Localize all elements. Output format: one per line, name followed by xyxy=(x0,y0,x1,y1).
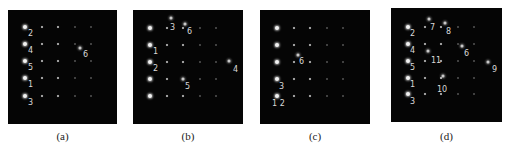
grid-spot xyxy=(74,43,76,45)
grid-spot xyxy=(424,60,426,62)
marked-spot xyxy=(461,45,464,48)
grid-spot xyxy=(342,61,344,63)
grid-spot xyxy=(275,43,279,47)
grid-spot xyxy=(148,94,152,98)
grid-spot xyxy=(23,42,27,46)
grid-spot xyxy=(182,27,184,29)
grid-spot xyxy=(473,77,475,79)
grid-spot xyxy=(406,92,410,96)
grid-spot xyxy=(440,43,442,45)
spot-label: 2 xyxy=(410,30,415,38)
grid-spot xyxy=(182,61,184,63)
grid-spot xyxy=(309,78,311,80)
grid-spot xyxy=(424,93,426,95)
grid-spot xyxy=(473,93,475,95)
grid-spot xyxy=(457,60,459,62)
marked-spot xyxy=(170,17,173,20)
grid-spot xyxy=(342,44,344,46)
grid-spot xyxy=(90,95,92,97)
grid-spot xyxy=(23,59,27,63)
grid-spot xyxy=(41,26,43,28)
grid-spot xyxy=(424,26,426,28)
grid-spot xyxy=(57,77,59,79)
grid-spot xyxy=(199,44,201,46)
grid-spot xyxy=(166,44,168,46)
spot-label: 9 xyxy=(492,66,497,74)
grid-spot xyxy=(199,78,201,80)
grid-spot xyxy=(182,44,184,46)
grid-spot xyxy=(473,60,475,62)
marked-spot xyxy=(184,23,187,26)
grid-spot xyxy=(293,95,295,97)
grid-spot xyxy=(275,26,279,30)
panel-caption-d: (d) xyxy=(427,130,467,142)
grid-spot xyxy=(90,77,92,79)
grid-spot xyxy=(74,77,76,79)
grid-spot xyxy=(182,95,184,97)
grid-spot xyxy=(342,95,344,97)
spot-label: 1 xyxy=(410,81,415,89)
spot-label: 3 xyxy=(410,98,415,106)
grid-spot xyxy=(215,27,217,29)
grid-spot xyxy=(41,95,43,97)
panel-caption-a: (a) xyxy=(43,130,83,142)
marked-spot xyxy=(442,75,445,78)
spot-label: 7 xyxy=(430,24,435,32)
spot-label: 1 xyxy=(153,48,158,56)
marked-spot xyxy=(444,22,447,25)
spot-label: 3 xyxy=(279,83,284,91)
grid-spot xyxy=(148,60,152,64)
grid-spot xyxy=(457,43,459,45)
grid-spot xyxy=(275,77,279,81)
grid-spot xyxy=(74,95,76,97)
spot-label: 8 xyxy=(446,28,451,36)
grid-spot xyxy=(326,78,328,80)
grid-spot xyxy=(215,44,217,46)
grid-spot xyxy=(309,27,311,29)
spot-label: 3 xyxy=(170,24,175,32)
marked-spot xyxy=(228,60,231,63)
grid-spot xyxy=(342,78,344,80)
grid-spot xyxy=(166,95,168,97)
grid-spot xyxy=(309,61,311,63)
grid-spot xyxy=(148,77,152,81)
grid-spot xyxy=(57,43,59,45)
grid-spot xyxy=(41,77,43,79)
panel-c: 631 2 xyxy=(260,10,370,124)
grid-spot xyxy=(457,77,459,79)
grid-spot xyxy=(90,60,92,62)
spot-label: 6 xyxy=(83,51,88,59)
grid-spot xyxy=(23,25,27,29)
grid-spot xyxy=(326,61,328,63)
grid-spot xyxy=(473,43,475,45)
grid-spot xyxy=(215,95,217,97)
marked-spot xyxy=(182,78,185,81)
grid-spot xyxy=(275,94,279,98)
grid-spot xyxy=(215,61,217,63)
grid-spot xyxy=(215,78,217,80)
panel-b: 361245 xyxy=(133,10,243,124)
grid-spot xyxy=(199,95,201,97)
grid-spot xyxy=(457,93,459,95)
grid-spot xyxy=(199,27,201,29)
grid-spot xyxy=(342,27,344,29)
grid-spot xyxy=(74,26,76,28)
grid-spot xyxy=(57,95,59,97)
grid-spot xyxy=(326,27,328,29)
grid-spot xyxy=(275,60,279,64)
spot-label: 4 xyxy=(28,47,33,55)
grid-spot xyxy=(326,44,328,46)
grid-spot xyxy=(326,95,328,97)
grid-spot xyxy=(166,78,168,80)
grid-spot xyxy=(166,27,168,29)
spot-label: 11 xyxy=(431,57,441,65)
spot-label: 10 xyxy=(437,86,447,94)
grid-spot xyxy=(293,61,295,63)
grid-spot xyxy=(457,26,459,28)
grid-spot xyxy=(148,43,152,47)
grid-spot xyxy=(57,26,59,28)
spot-label: 1 2 xyxy=(272,100,285,108)
grid-spot xyxy=(23,94,27,98)
panel-caption-c: (c) xyxy=(295,130,335,142)
grid-spot xyxy=(41,43,43,45)
